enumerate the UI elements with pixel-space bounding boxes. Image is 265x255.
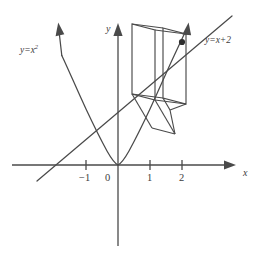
solid-edge-top-right — [155, 30, 186, 34]
parabola-label-text: y=x — [20, 45, 35, 55]
axes-group — [12, 23, 236, 246]
parabola-label-exponent: 2 — [35, 43, 38, 50]
y-axis-label: y — [106, 24, 110, 34]
line-label: y=x+2 — [205, 36, 231, 46]
intersection-point-dot — [179, 39, 185, 45]
parabola-left-arrowhead — [56, 23, 65, 37]
origin-label: 0 — [105, 173, 110, 184]
x-axis-label: x — [243, 168, 247, 178]
parabola-curve-group — [56, 23, 192, 166]
x-tick-label-1: 1 — [147, 173, 152, 184]
y-axis-arrowhead — [113, 23, 122, 36]
square-cross-section-solid — [132, 24, 186, 134]
solid-edge-top-left — [132, 24, 163, 28]
x-tick-label-minus1: −1 — [79, 173, 90, 184]
parabola-left-tail — [59, 35, 61, 56]
cross-section-square-left — [132, 24, 155, 100]
solid-edge-bottom-right — [155, 100, 186, 104]
x-tick-label-2: 2 — [179, 173, 184, 184]
x-axis-arrowhead — [224, 161, 236, 170]
math-figure: y=x2 y=x+2 y x −1 0 1 2 — [0, 0, 265, 255]
parabola-label: y=x2 — [20, 44, 38, 56]
solid-base-trace-far — [170, 104, 186, 110]
